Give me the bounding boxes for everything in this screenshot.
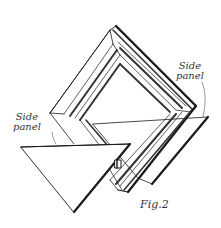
left-side-panel-label: Side panel [13, 112, 41, 132]
right-label-line2: panel [176, 71, 204, 81]
right-side-panel-label: Side panel [176, 61, 204, 81]
figure-caption: Fig.2 [140, 200, 169, 210]
left-side-panel [21, 144, 130, 212]
left-label-line2: panel [13, 122, 41, 132]
